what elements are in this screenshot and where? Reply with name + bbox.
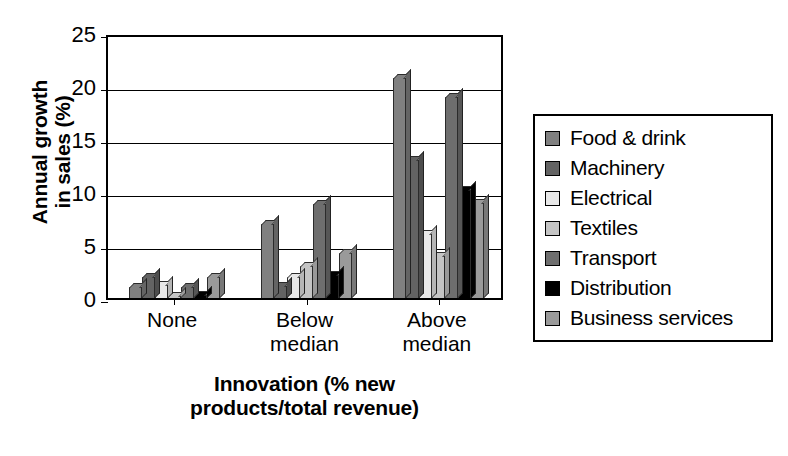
y-axis-tick-label: 15: [52, 130, 96, 152]
legend-label: Distribution: [570, 276, 671, 300]
x-axis-category-label-line: Below: [230, 308, 380, 332]
y-axis-tick-label: 25: [52, 24, 96, 46]
legend-item[interactable]: Business services: [545, 303, 763, 333]
bar: [393, 78, 406, 298]
legend-swatch-icon: [545, 251, 560, 266]
x-axis-title: Innovation (% new products/total revenue…: [106, 372, 503, 419]
bar-side-face: [471, 181, 476, 298]
gridline: [108, 196, 501, 197]
y-axis-tick-label: 0: [52, 289, 96, 311]
bar-side-face: [432, 225, 437, 298]
legend-swatch-icon: [545, 311, 560, 326]
legend-swatch-icon: [545, 191, 560, 206]
x-axis-title-line-1: Innovation (% new: [106, 372, 503, 396]
bar-side-face: [300, 268, 305, 298]
x-axis-tick-mark: [174, 298, 175, 305]
bar: [129, 287, 142, 298]
legend-item[interactable]: Electrical: [545, 183, 763, 213]
gridline: [108, 143, 501, 144]
legend-item[interactable]: Distribution: [545, 273, 763, 303]
bar: [261, 224, 274, 298]
bar-side-face: [326, 195, 331, 298]
y-axis-tick-label: 20: [52, 77, 96, 99]
y-axis-tick-mark: [101, 90, 108, 91]
legend-swatch-icon: [545, 161, 560, 176]
legend-label: Business services: [570, 306, 733, 330]
bar-side-face: [484, 194, 489, 298]
legend-item[interactable]: Transport: [545, 243, 763, 273]
legend-swatch-icon: [545, 131, 560, 146]
x-axis-category-label-line: None: [97, 308, 247, 332]
x-axis-category-label-line: Above: [362, 308, 512, 332]
legend-label: Textiles: [570, 216, 638, 240]
gridline: [108, 90, 501, 91]
bar-side-face: [313, 257, 318, 298]
bar-side-face: [406, 69, 411, 298]
chart-figure: Annual growth in sales (%) 0510152025 No…: [0, 0, 788, 456]
y-axis-tick-labels: 0510152025: [48, 0, 96, 456]
x-axis-category-label-line: median: [230, 332, 380, 356]
legend-item[interactable]: Food & drink: [545, 123, 763, 153]
y-axis-tick-label: 10: [52, 183, 96, 205]
bar-side-face: [419, 151, 424, 298]
x-axis-tick-labels: NoneBelowmedianAbovemedian: [106, 308, 503, 364]
legend-label: Transport: [570, 246, 656, 270]
gridline: [108, 249, 501, 250]
legend-item[interactable]: Machinery: [545, 153, 763, 183]
y-axis-tick-label: 5: [52, 236, 96, 258]
bar-side-face: [220, 268, 225, 298]
legend: Food & drinkMachineryElectricalTextilesT…: [533, 114, 773, 342]
y-axis-tick-mark: [101, 249, 108, 250]
bar-side-face: [155, 268, 160, 298]
y-axis-tick-mark: [101, 196, 108, 197]
y-axis-tick-mark: [101, 143, 108, 144]
x-axis-title-line-2: products/total revenue): [106, 396, 503, 420]
x-axis-category-label: None: [97, 308, 247, 332]
x-axis-category-label: Abovemedian: [362, 308, 512, 356]
x-axis-category-label-line: median: [362, 332, 512, 356]
legend-label: Food & drink: [570, 126, 685, 150]
y-axis-tick-mark: [101, 37, 108, 38]
bar-side-face: [445, 247, 450, 298]
legend-item[interactable]: Textiles: [545, 213, 763, 243]
bar-side-face: [458, 88, 463, 298]
legend-label: Electrical: [570, 186, 652, 210]
y-axis-tick-mark: [101, 302, 108, 303]
x-axis-tick-mark: [439, 298, 440, 305]
bar-side-face: [352, 244, 357, 298]
bar-side-face: [274, 215, 279, 298]
legend-label: Machinery: [570, 156, 664, 180]
x-axis-tick-mark: [307, 298, 308, 305]
legend-swatch-icon: [545, 281, 560, 296]
bar: [168, 296, 181, 298]
legend-swatch-icon: [545, 221, 560, 236]
plot-area: [106, 35, 503, 300]
x-axis-category-label: Belowmedian: [230, 308, 380, 356]
bar-side-face: [339, 266, 344, 298]
